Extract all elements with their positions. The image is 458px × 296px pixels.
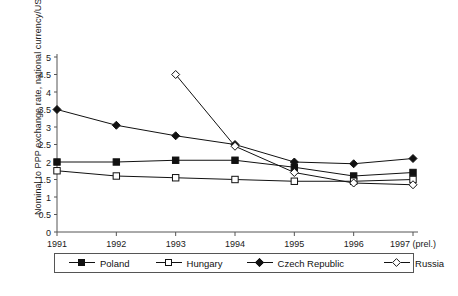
series-russia bbox=[172, 71, 417, 189]
x-axis-tick-label: 1995 bbox=[284, 239, 304, 249]
y-axis-tick-label: 2.5 bbox=[38, 140, 51, 150]
y-axis-tick-label: 0.5 bbox=[38, 210, 51, 220]
x-axis-tick-label: 1993 bbox=[166, 239, 186, 249]
legend-symbol-square-filled-icon bbox=[78, 259, 85, 266]
data-point-marker bbox=[54, 168, 60, 174]
chart-legend: PolandHungaryCzech RepublicRussia bbox=[54, 253, 414, 273]
legend-item-label: Hungary bbox=[187, 258, 223, 269]
data-point-marker bbox=[54, 159, 60, 165]
y-axis-tick-label: 2 bbox=[46, 158, 51, 168]
data-point-marker bbox=[53, 106, 61, 114]
legend-item-czech-republic[interactable]: Czech Republic bbox=[247, 254, 345, 272]
data-point-marker bbox=[291, 178, 297, 184]
y-axis-tick-label: 3.5 bbox=[38, 105, 51, 115]
data-point-marker bbox=[172, 132, 180, 140]
x-axis-tick-label: 1991 bbox=[47, 239, 67, 249]
y-axis-tick-label: 3 bbox=[46, 123, 51, 133]
legend-item-poland[interactable]: Poland bbox=[69, 254, 130, 272]
series-line bbox=[57, 110, 413, 164]
x-axis-tick-label: 1994 bbox=[225, 239, 245, 249]
legend-marker-icon bbox=[247, 258, 273, 268]
legend-symbol-diamond-open-icon bbox=[392, 258, 401, 267]
data-point-marker bbox=[410, 169, 416, 175]
y-axis-tick-label: 5 bbox=[46, 53, 51, 63]
data-point-marker bbox=[172, 175, 178, 181]
data-point-marker bbox=[350, 160, 358, 168]
data-point-marker bbox=[232, 157, 238, 163]
x-axis-tick-label: 1996 bbox=[344, 239, 364, 249]
y-axis-tick-label: 4.5 bbox=[38, 70, 51, 80]
legend-item-label: Poland bbox=[100, 258, 130, 269]
data-point-marker bbox=[112, 121, 120, 129]
chart-figure: Nominal to PPP exchange rate, national c… bbox=[0, 0, 458, 296]
line-chart-plot: 00.511.522.533.544.551991199219931994199… bbox=[0, 0, 458, 296]
data-point-marker bbox=[172, 157, 178, 163]
y-axis-tick-label: 1.5 bbox=[38, 175, 51, 185]
legend-symbol-square-open-icon bbox=[165, 259, 172, 266]
legend-marker-icon bbox=[384, 258, 410, 268]
legend-item-hungary[interactable]: Hungary bbox=[156, 254, 223, 272]
data-point-marker bbox=[232, 176, 238, 182]
x-axis-tick-label: 1997 (prel.) bbox=[390, 239, 436, 249]
data-point-marker bbox=[113, 159, 119, 165]
data-point-marker bbox=[113, 173, 119, 179]
legend-marker-icon bbox=[69, 258, 95, 268]
legend-symbol-diamond-filled-icon bbox=[254, 258, 263, 267]
data-point-marker bbox=[409, 155, 417, 163]
x-axis-tick-label: 1992 bbox=[106, 239, 126, 249]
legend-item-russia[interactable]: Russia bbox=[384, 254, 444, 272]
legend-item-label: Czech Republic bbox=[278, 258, 345, 269]
y-axis-tick-label: 4 bbox=[46, 88, 51, 98]
y-axis-tick-label: 0 bbox=[46, 228, 51, 238]
legend-marker-icon bbox=[156, 258, 182, 268]
legend-item-label: Russia bbox=[415, 258, 444, 269]
y-axis-tick-label: 1 bbox=[46, 193, 51, 203]
